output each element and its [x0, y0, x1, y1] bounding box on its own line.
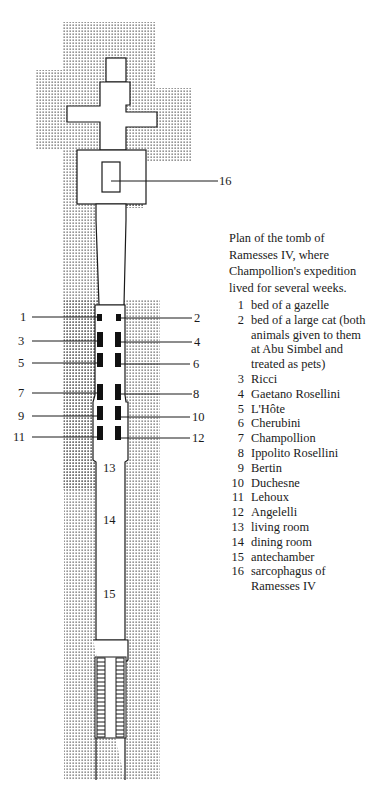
- legend: 1bed of a gazelle2bed of a large cat (bo…: [225, 298, 368, 594]
- legend-item: 15antechamber: [225, 550, 368, 565]
- label-5: 5: [18, 356, 24, 370]
- legend-number: 14: [225, 535, 251, 550]
- bed-3: [97, 332, 103, 347]
- legend-item: 7Champollion: [225, 431, 368, 446]
- legend-item: 3Ricci: [225, 372, 368, 387]
- bed-7: [97, 384, 103, 400]
- label-3: 3: [18, 334, 24, 348]
- bed-2: [116, 314, 121, 321]
- legend-text: bed of a gazelle: [251, 298, 368, 313]
- label-11: 11: [13, 430, 25, 444]
- label-13: 13: [103, 461, 116, 475]
- legend-text: Angelelli: [251, 505, 368, 520]
- legend-text: living room: [251, 520, 368, 535]
- bed-6: [115, 353, 121, 367]
- legend-number: 3: [225, 372, 251, 387]
- label-10: 10: [192, 410, 205, 424]
- legend-number: 1: [225, 298, 251, 313]
- legend-text: Ippolito Rosellini: [251, 446, 368, 461]
- bed-12: [115, 426, 121, 440]
- legend-text: dining room: [251, 535, 368, 550]
- sarcophagus: [102, 162, 120, 192]
- legend-item: 10Duchesne: [225, 476, 368, 491]
- legend-number: 10: [225, 476, 251, 491]
- legend-text: Champollion: [251, 431, 368, 446]
- legend-number: 16: [225, 564, 251, 594]
- legend-text: Ricci: [251, 372, 368, 387]
- label-15: 15: [103, 587, 116, 601]
- legend-item: 13living room: [225, 520, 368, 535]
- legend-item: 9Bertin: [225, 461, 368, 476]
- label-9: 9: [18, 409, 24, 423]
- bed-8: [115, 384, 121, 400]
- legend-item: 14dining room: [225, 535, 368, 550]
- legend-item: 12Angelelli: [225, 505, 368, 520]
- legend-number: 8: [225, 446, 251, 461]
- legend-number: 6: [225, 416, 251, 431]
- legend-item: 6Cherubini: [225, 416, 368, 431]
- legend-item: 8Ippolito Rosellini: [225, 446, 368, 461]
- label-4: 4: [194, 335, 201, 349]
- legend-number: 13: [225, 520, 251, 535]
- legend-number: 12: [225, 505, 251, 520]
- legend-item: 1bed of a gazelle: [225, 298, 368, 313]
- label-6: 6: [193, 357, 199, 371]
- bed-9: [97, 406, 103, 420]
- legend-text: bed of a large cat (both animals given t…: [251, 313, 368, 372]
- bed-4: [115, 332, 121, 347]
- label-1: 1: [20, 310, 26, 324]
- label-14: 14: [103, 513, 116, 527]
- label-2: 2: [194, 311, 200, 325]
- legend-number: 11: [225, 490, 251, 505]
- ramp-stairs: [95, 657, 126, 738]
- caption: Plan of the tomb of Ramesses IV, where C…: [229, 230, 367, 296]
- legend-item: 5L'Hôte: [225, 402, 368, 417]
- legend-text: Gaetano Rosellini: [251, 387, 368, 402]
- legend-text: Bertin: [251, 461, 368, 476]
- legend-number: 7: [225, 431, 251, 446]
- legend-item: 4Gaetano Rosellini: [225, 387, 368, 402]
- legend-item: 2bed of a large cat (both animals given …: [225, 313, 368, 372]
- bed-10: [115, 406, 121, 420]
- label-12: 12: [192, 431, 205, 445]
- bed-11: [97, 426, 103, 440]
- legend-number: 9: [225, 461, 251, 476]
- legend-item: 11Lehoux: [225, 490, 368, 505]
- legend-number: 4: [225, 387, 251, 402]
- legend-text: sarcophagus of Ramesses IV: [251, 564, 368, 594]
- legend-number: 5: [225, 402, 251, 417]
- legend-number: 15: [225, 550, 251, 565]
- legend-text: L'Hôte: [251, 402, 368, 417]
- bed-5: [97, 353, 103, 367]
- label-16: 16: [219, 174, 232, 188]
- label-8: 8: [193, 387, 199, 401]
- upper-passage: [96, 204, 126, 305]
- bed-1: [97, 314, 102, 321]
- label-7: 7: [18, 386, 24, 400]
- legend-text: Lehoux: [251, 490, 368, 505]
- legend-text: antechamber: [251, 550, 368, 565]
- innermost-chamber: [106, 58, 126, 82]
- legend-item: 16sarcophagus of Ramesses IV: [225, 564, 368, 594]
- legend-number: 2: [225, 313, 251, 372]
- legend-text: Cherubini: [251, 416, 368, 431]
- legend-text: Duchesne: [251, 476, 368, 491]
